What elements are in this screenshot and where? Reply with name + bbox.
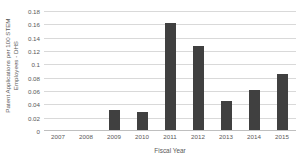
bar[interactable] xyxy=(137,112,148,131)
y-axis-tick-label: 0.14 xyxy=(28,34,40,41)
y-axis-title-line-1: Patent Applications per 100 STEM xyxy=(3,19,11,113)
bar-slot xyxy=(156,11,184,131)
y-axis-tick-label: 0.18 xyxy=(28,8,40,15)
bar-series xyxy=(44,11,296,131)
x-axis-tick-label: 2015 xyxy=(268,133,296,145)
bar-slot xyxy=(240,11,268,131)
x-axis-tick-label: 2007 xyxy=(44,133,72,145)
y-axis-tick-label: 0.02 xyxy=(28,114,40,121)
x-axis-tick-label: 2009 xyxy=(100,133,128,145)
x-axis-tick-label: 2013 xyxy=(212,133,240,145)
y-axis-tick-label: 0.06 xyxy=(28,88,40,95)
x-axis-tick-label: 2014 xyxy=(240,133,268,145)
y-axis-tick-label: 0 xyxy=(37,128,40,135)
y-axis-tick-labels: 0.180.160.140.120.10.080.060.040.020 xyxy=(22,0,42,136)
y-axis-title-line-2: Employees - DHS xyxy=(11,19,19,113)
bar-slot xyxy=(184,11,212,131)
bar[interactable] xyxy=(109,110,120,131)
x-axis-tick-label: 2011 xyxy=(156,133,184,145)
bar-slot xyxy=(212,11,240,131)
bar[interactable] xyxy=(165,23,176,131)
bar[interactable] xyxy=(221,101,232,131)
bar-slot xyxy=(128,11,156,131)
x-axis-line xyxy=(44,130,296,131)
plot-area xyxy=(44,11,296,131)
x-axis-tick-label: 2010 xyxy=(128,133,156,145)
bar[interactable] xyxy=(193,46,204,131)
bar-chart: Patent Applications per 100 STEM Employe… xyxy=(0,0,302,164)
bar-slot xyxy=(268,11,296,131)
y-axis-tick-label: 0.1 xyxy=(31,61,40,68)
x-axis-title: Fiscal Year xyxy=(44,147,296,154)
y-axis-tick-label: 0.08 xyxy=(28,74,40,81)
x-axis-tick-label: 2012 xyxy=(184,133,212,145)
bar-slot xyxy=(72,11,100,131)
y-axis-tick-label: 0.04 xyxy=(28,101,40,108)
y-axis-tick-label: 0.16 xyxy=(28,21,40,28)
bar-slot xyxy=(100,11,128,131)
bar[interactable] xyxy=(249,90,260,131)
bar[interactable] xyxy=(277,74,288,131)
y-axis-tick-label: 0.12 xyxy=(28,48,40,55)
y-axis-title: Patent Applications per 100 STEM Employe… xyxy=(0,0,22,132)
x-axis-tick-labels: 200720082009201020112012201320142015 xyxy=(44,133,296,145)
x-axis-tick-label: 2008 xyxy=(72,133,100,145)
bar-slot xyxy=(44,11,72,131)
